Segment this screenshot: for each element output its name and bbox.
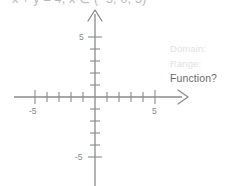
function-prompt: Function? [170,71,228,86]
range-prompt: Range: [170,56,228,71]
worksheet-page: x + y = 4, x ∈ (−5, 0, 5) [0,0,228,186]
x-axis-label-neg5: -5 [29,106,37,116]
coordinate-plane: -5 5 5 -5 [0,0,228,186]
y-axis [88,10,102,186]
x-axis [14,90,188,104]
x-axis-label-pos5: 5 [152,106,157,116]
prompt-column: Domain: Range: Function? [170,41,228,86]
y-axis-label-neg5: -5 [75,152,83,162]
domain-prompt: Domain: [170,41,228,56]
y-axis-label-pos5: 5 [79,32,84,42]
